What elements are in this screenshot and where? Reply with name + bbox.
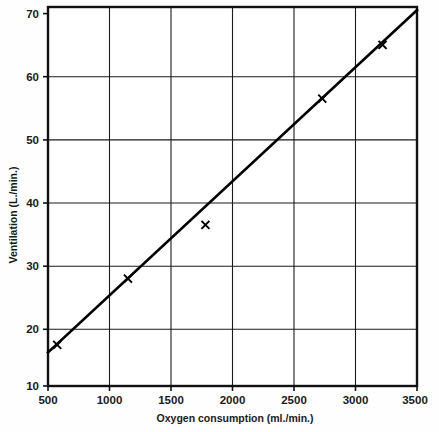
ytick-label-50: 50 [26, 134, 39, 146]
xtick-label-1500: 1500 [158, 394, 184, 406]
xtick-label-2500: 2500 [281, 394, 307, 406]
xtick-label-500: 500 [38, 394, 57, 406]
y-tick-labels: 70 60 50 40 30 20 10 [26, 8, 39, 392]
ytick-label-10: 10 [26, 380, 39, 392]
y-axis-title: Ventilation (L./min.) [7, 167, 19, 264]
ytick-label-40: 40 [26, 197, 39, 209]
ytick-label-60: 60 [26, 71, 39, 83]
xtick-label-2000: 2000 [220, 394, 246, 406]
ytick-label-20: 20 [26, 323, 39, 335]
xtick-label-3500: 3500 [402, 394, 428, 406]
chart-canvas: 70 60 50 40 30 20 10 500 1000 1500 2000 … [0, 0, 439, 432]
ytick-label-30: 30 [26, 260, 39, 272]
figure-container: 70 60 50 40 30 20 10 500 1000 1500 2000 … [0, 0, 439, 432]
x-tick-labels: 500 1000 1500 2000 2500 3000 3500 [38, 394, 427, 406]
xtick-label-1000: 1000 [97, 394, 123, 406]
xtick-label-3000: 3000 [343, 394, 369, 406]
x-axis-title: Oxygen consumption (ml./min.) [157, 412, 314, 424]
ytick-label-70: 70 [26, 8, 39, 20]
